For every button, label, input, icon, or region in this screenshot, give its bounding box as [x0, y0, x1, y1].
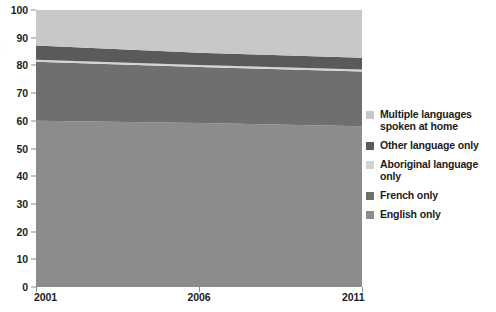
y-tick-label-30: 30 [17, 198, 28, 210]
legend-item-label: Other language only [380, 139, 479, 151]
y-axis: 0102030405060708090100 [0, 0, 36, 312]
legend-swatch-icon [366, 211, 374, 219]
legend-swatch-icon [366, 161, 374, 169]
x-tick-label-2001: 2001 [34, 291, 57, 303]
chart-legend: Multiple languages spoken at homeOther l… [366, 108, 494, 227]
x-tick-mark-2011 [362, 287, 363, 292]
plot-area [36, 10, 362, 287]
legend-swatch-icon [366, 111, 374, 119]
stacked-area-svg [36, 10, 362, 287]
y-tick-label-40: 40 [17, 170, 28, 182]
y-tick-label-90: 90 [17, 32, 28, 44]
area-band-english-only [36, 121, 362, 287]
legend-item-3[interactable]: French only [366, 189, 494, 201]
x-tick-mark-2001 [36, 287, 37, 292]
y-tick-label-10: 10 [17, 253, 28, 265]
legend-item-0[interactable]: Multiple languages spoken at home [366, 108, 494, 132]
y-tick-label-70: 70 [17, 87, 28, 99]
legend-swatch-icon [366, 142, 374, 150]
legend-item-label: Multiple languages spoken at home [380, 108, 472, 132]
y-tick-label-100: 100 [11, 4, 28, 16]
y-tick-label-60: 60 [17, 115, 28, 127]
legend-item-1[interactable]: Other language only [366, 139, 494, 151]
legend-item-label: Aboriginal language only [380, 158, 494, 182]
y-tick-label-0: 0 [22, 281, 28, 293]
legend-item-label: English only [380, 208, 441, 220]
area-band-french-only [36, 62, 362, 127]
legend-item-2[interactable]: Aboriginal language only [366, 158, 494, 182]
x-tick-label-2006: 2006 [188, 291, 211, 303]
y-tick-label-50: 50 [17, 143, 28, 155]
y-tick-label-20: 20 [17, 226, 28, 238]
x-tick-label-2011: 2011 [342, 291, 364, 303]
legend-swatch-icon [366, 192, 374, 200]
y-tick-label-80: 80 [17, 59, 28, 71]
legend-item-4[interactable]: English only [366, 208, 494, 220]
x-tick-mark-2006 [199, 287, 200, 292]
chart-root: ) 0102030405060708090100 Multiple langua… [0, 0, 496, 312]
legend-item-label: French only [380, 189, 438, 201]
